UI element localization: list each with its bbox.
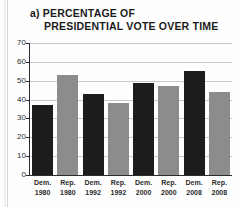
y-tick-label-40: 40 [2,96,26,104]
x-tick-label-dem-1980: Dem.1980 [30,178,55,197]
plot-area [30,43,232,175]
y-tick-label-50: 50 [2,77,26,85]
bar-rep-1980 [57,75,78,175]
bar-rep-1992 [108,103,129,175]
bar-dem-2000 [133,83,154,175]
bar-dem-1980 [32,105,53,175]
chart-title-line-1: a) PERCENTAGE OF [30,7,236,20]
gridline-70 [30,43,232,44]
x-tick-label-rep-1980: Rep.1980 [55,178,80,197]
x-label-year: 2008 [182,188,207,198]
x-axis-line [30,175,232,176]
bar-rep-2000 [158,86,179,175]
y-tick-label-0: 0 [2,171,26,179]
y-tick-label-60: 60 [2,58,26,66]
y-axis-line [29,43,30,176]
y-tick-label-10: 10 [2,152,26,160]
x-label-year: 1992 [106,188,131,198]
x-label-party: Rep. [207,178,232,188]
x-label-year: 1992 [81,188,106,198]
x-label-party: Dem. [30,178,55,188]
x-tick-label-dem-2000: Dem.2000 [131,178,156,197]
chart-title: a) PERCENTAGE OF PRESIDENTIAL VOTE OVER … [30,7,236,33]
x-label-party: Rep. [156,178,181,188]
y-axis-labels: 010203040506070 [0,0,26,207]
x-tick-label-rep-2000: Rep.2000 [156,178,181,197]
y-tick-label-30: 30 [2,114,26,122]
x-label-year: 1980 [30,188,55,198]
x-tick-label-dem-1992: Dem.1992 [81,178,106,197]
y-tick-label-20: 20 [2,133,26,141]
x-tick-label-rep-1992: Rep.1992 [106,178,131,197]
x-label-year: 2000 [131,188,156,198]
x-label-party: Dem. [182,178,207,188]
x-label-year: 2008 [207,188,232,198]
x-label-party: Dem. [131,178,156,188]
x-axis-labels: Dem.1980Rep.1980Dem.1992Rep.1992Dem.2000… [30,178,232,204]
chart-title-line-2: PRESIDENTIAL VOTE OVER TIME [30,20,236,33]
y-tick-label-70: 70 [2,39,26,47]
gridline-60 [30,62,232,63]
bar-dem-1992 [83,94,104,175]
chart-figure: a) PERCENTAGE OF PRESIDENTIAL VOTE OVER … [0,0,240,207]
x-label-year: 1980 [55,188,80,198]
bar-rep-2008 [209,92,230,175]
bar-dem-2008 [184,71,205,175]
x-tick-label-rep-2008: Rep.2008 [207,178,232,197]
x-tick-label-dem-2008: Dem.2008 [182,178,207,197]
x-label-year: 2000 [156,188,181,198]
x-label-party: Dem. [81,178,106,188]
x-label-party: Rep. [55,178,80,188]
x-label-party: Rep. [106,178,131,188]
